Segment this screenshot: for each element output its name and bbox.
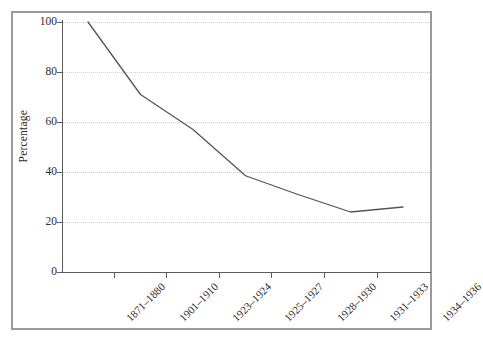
x-tick-label-6: 1934–1936 xyxy=(440,281,483,324)
data-line-percentage xyxy=(88,22,403,212)
